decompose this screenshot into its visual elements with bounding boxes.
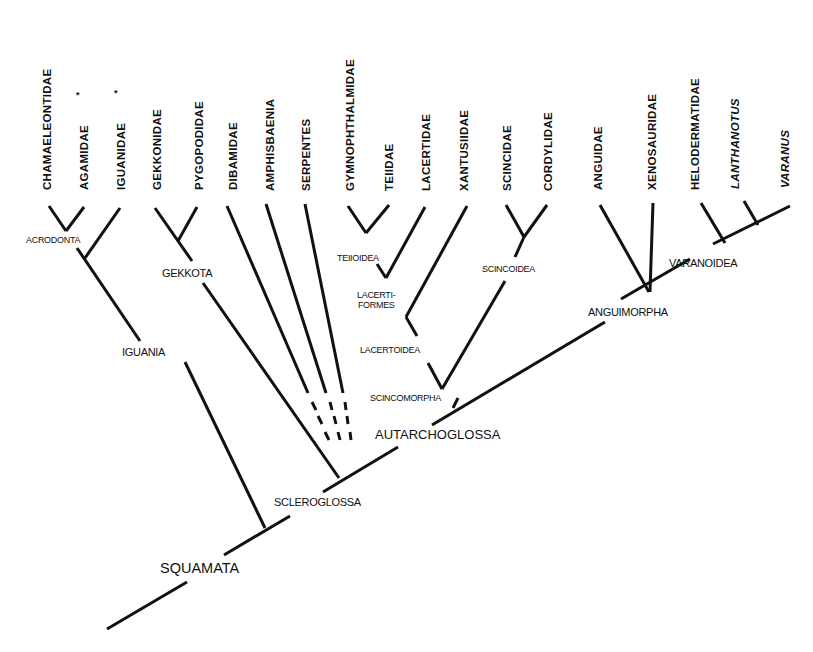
branch-scincoidea-upper — [515, 237, 524, 257]
branch-anguidae — [600, 205, 649, 292]
taxon-gymnophthalmidae: GYMNOPHTHALMIDAE — [344, 59, 356, 191]
taxon-scincidae: SCINCIDAE — [501, 125, 513, 191]
branch-lanthanotus — [744, 201, 758, 225]
branch-scincidae — [506, 205, 524, 237]
branch-scincoidea-lower — [442, 281, 505, 389]
clade-gekkota: GEKKOTA — [162, 267, 212, 279]
marker-iguanidae: * — [114, 88, 118, 98]
branch-cordylidae — [524, 205, 547, 237]
taxon-gekkonidae: GEKKONIDAE — [151, 109, 163, 190]
clade-lacertoidea: LACERTOIDEA — [360, 345, 420, 355]
branch-agamidae — [66, 207, 84, 231]
clade-teiioidea: TEIIOIDEA — [337, 253, 379, 263]
clade-scincomorpha: SCINCOMORPHA — [370, 393, 441, 403]
branch-xenosauridae — [650, 203, 653, 292]
clade-anguimorpha: ANGUIMORPHA — [588, 306, 668, 318]
clade-iguania: IGUANIA — [122, 346, 165, 358]
taxon-helodermatidae: HELODERMATIDAE — [689, 78, 701, 190]
taxon-lanthanotus: LANTHANOTUS — [729, 98, 741, 189]
taxon-dibamidae: DIBAMIDAE — [227, 122, 239, 190]
taxon-xantusiidae: XANTUSIIDAE — [458, 110, 470, 191]
taxon-teiidae: TEIIDAE — [383, 144, 395, 191]
dash-serpentes-3 — [350, 432, 351, 440]
dash-serpentes-1 — [345, 402, 346, 410]
branch-iguanidae — [85, 208, 120, 258]
branch-serpentes — [305, 204, 343, 393]
clade-squamata: SQUAMATA — [160, 560, 239, 576]
branch-scincomorpha-stem — [453, 398, 458, 408]
taxon-iguanidae: IGUANIDAE — [115, 123, 127, 190]
dash-amphisbaenia-3 — [338, 432, 340, 440]
branch-helodermatidae — [701, 203, 725, 243]
dash-serpentes-2 — [347, 416, 348, 424]
branch-lacertiformes-stem — [406, 317, 417, 336]
dash-amphisbaenia-1 — [330, 402, 332, 410]
branch-iguania-upper — [77, 248, 140, 341]
branch-gekkota-lower — [203, 283, 339, 478]
dash-amphisbaenia-2 — [334, 416, 336, 424]
branch-teiioidea-stem — [377, 264, 386, 278]
taxon-cordylidae: CORDYLIDAE — [542, 112, 554, 191]
branch-gymnophthalmidae — [348, 206, 366, 233]
taxon-anguidae: ANGUIDAE — [592, 126, 604, 190]
clade-scincoidea: SCINCOIDEA — [482, 264, 535, 274]
clade-lacertiformes-line2: FORMES — [357, 300, 395, 310]
branch-autarchoglossa-to-anguimorpha — [432, 322, 605, 425]
taxon-amphisbaenia: AMPHISBAENIA — [264, 99, 276, 191]
branch-chamaeleontidae — [49, 206, 66, 231]
clade-lacertiformes: LACERTI- FORMES — [357, 290, 395, 310]
clade-scleroglossa: SCLEROGLOSSA — [274, 496, 361, 508]
taxon-xenosauridae: XENOSAURIDAE — [646, 94, 658, 190]
branch-lacertoidea-stem — [428, 363, 442, 389]
clade-acrodonta: ACRODONTA — [26, 235, 80, 245]
clade-lacertiformes-line1: LACERTI- — [357, 290, 395, 300]
clade-autarchoglossa: AUTARCHOGLOSSA — [375, 427, 500, 442]
dash-dibamidae-1 — [312, 402, 316, 410]
branch-teiidae — [366, 205, 389, 233]
taxon-serpentes: SERPENTES — [300, 119, 312, 191]
dash-dibamidae-2 — [318, 416, 322, 424]
branch-gekkota-upper — [155, 208, 192, 261]
taxon-varanus: VARANUS — [779, 130, 791, 188]
taxon-lacertidae: LACERTIDAE — [420, 114, 432, 191]
clade-varanoidea: VARANOIDEA — [669, 257, 737, 269]
marker-agamidae: * — [76, 90, 80, 100]
branch-iguania-lower — [185, 362, 265, 528]
taxon-agamidae: AGAMIDAE — [78, 125, 90, 190]
branch-squamata-root — [107, 582, 187, 629]
taxon-chamaeleontidae: CHAMAELEONTIDAE — [41, 69, 53, 190]
dash-dibamidae-3 — [325, 432, 329, 440]
branch-squamata-to-scleroglossa — [224, 516, 290, 555]
taxon-pygopodidae: PYGOPODIDAE — [193, 101, 205, 190]
branch-pygopodidae — [178, 207, 197, 241]
branch-lacertidae — [386, 207, 425, 278]
